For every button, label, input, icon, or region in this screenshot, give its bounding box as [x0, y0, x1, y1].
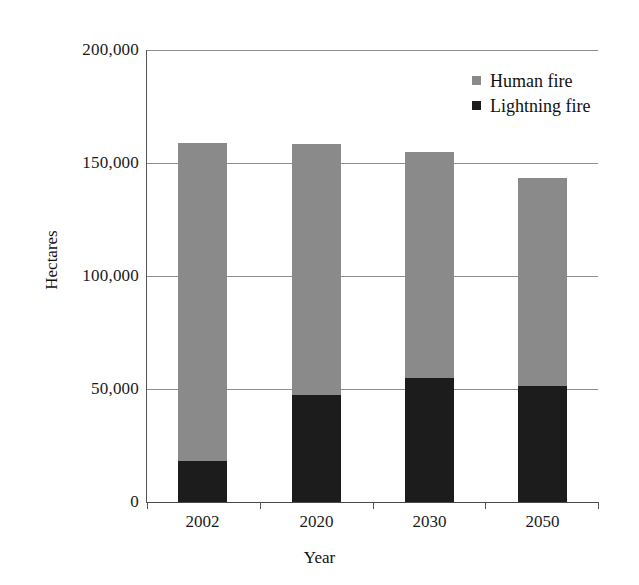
legend-item[interactable]: Lightning fire — [472, 93, 590, 118]
y-tick-label: 150,000 — [19, 154, 139, 171]
legend-label: Human fire — [490, 72, 572, 90]
y-axis-title: Hectares — [42, 180, 62, 340]
bar-segment-lightning-fire[interactable] — [405, 378, 454, 502]
x-tick-label: 2050 — [483, 512, 603, 532]
bar-segment-lightning-fire[interactable] — [292, 395, 341, 502]
x-tick-label: 2020 — [257, 512, 377, 532]
x-tick-mark — [147, 502, 148, 509]
x-tick-mark — [260, 502, 261, 509]
chart-legend: Human fireLightning fire — [472, 68, 590, 118]
x-tick-mark — [485, 502, 486, 509]
x-tick-mark — [598, 502, 599, 509]
bar-segment-human-fire[interactable] — [292, 144, 341, 395]
bar-group[interactable] — [178, 50, 227, 502]
stacked-bar-chart: 050,000100,000150,000200,000 Hectares 20… — [0, 0, 639, 585]
bar-segment-human-fire[interactable] — [178, 143, 227, 462]
x-tick-mark — [373, 502, 374, 509]
legend-swatch-icon — [472, 76, 481, 85]
bar-segment-human-fire[interactable] — [518, 178, 567, 386]
y-tick-label: 200,000 — [19, 41, 139, 58]
legend-item[interactable]: Human fire — [472, 68, 590, 93]
bar-segment-lightning-fire[interactable] — [178, 461, 227, 502]
y-tick-label: 50,000 — [19, 380, 139, 397]
x-tick-label: 2002 — [143, 512, 263, 532]
y-tick-label: 100,000 — [19, 267, 139, 284]
bar-group[interactable] — [405, 50, 454, 502]
x-tick-label: 2030 — [370, 512, 490, 532]
legend-swatch-icon — [472, 101, 481, 110]
bar-segment-human-fire[interactable] — [405, 152, 454, 378]
y-tick-label: 0 — [19, 493, 139, 510]
legend-label: Lightning fire — [490, 97, 590, 115]
x-axis-title: Year — [0, 548, 639, 568]
bar-group[interactable] — [292, 50, 341, 502]
bar-segment-lightning-fire[interactable] — [518, 386, 567, 502]
